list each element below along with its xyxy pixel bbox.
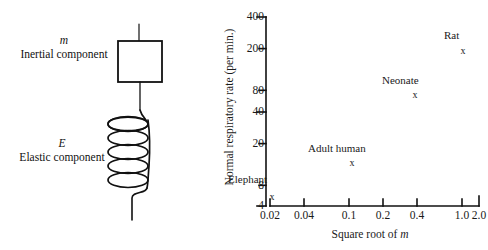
y-tick-label-200: 200	[234, 42, 264, 54]
point-marker-neonate: x	[409, 89, 421, 100]
respiratory-rate-chart: Normal respiratory rate (per min.)	[210, 0, 488, 250]
point-label-adult-human: Adult human	[308, 142, 366, 154]
point-marker-rat: x	[457, 45, 469, 56]
mass-label: m Inertial component	[8, 33, 120, 62]
y-tick-label-80: 80	[234, 84, 264, 96]
x-axis-title: Square root of m	[262, 228, 478, 240]
x-tick-label-2.0: 2.0	[459, 209, 488, 221]
spring-label: E Elastic component	[4, 136, 120, 165]
spring-caption: Elastic component	[19, 151, 104, 163]
spring-symbol: E	[4, 136, 120, 150]
x-tick-label-0.04: 0.04	[284, 209, 324, 221]
spring-bottom-lead	[132, 188, 147, 220]
mass-block	[118, 41, 162, 82]
mass-spring-model-diagram: m Inertial component E Elastic component	[0, 0, 210, 250]
figure-root: m Inertial component E Elastic component…	[0, 0, 488, 250]
y-tick-label-20: 20	[234, 137, 264, 149]
point-marker-adult-human: x	[346, 157, 358, 168]
x-axis-title-text: Square root of	[332, 228, 401, 240]
point-label-neonate: Neonate	[382, 74, 419, 86]
mass-symbol: m	[8, 33, 120, 47]
point-marker-elephant: x	[266, 191, 278, 202]
y-tick-label-400: 400	[234, 10, 264, 22]
x-axis-title-symbol: m	[400, 228, 408, 240]
point-label-rat: Rat	[444, 29, 459, 41]
y-tick-label-40: 40	[234, 105, 264, 117]
x-tick-label-0.4: 0.4	[397, 209, 437, 221]
spring-coil-lead	[108, 110, 148, 131]
mass-caption: Inertial component	[20, 48, 107, 60]
point-label-elephant: Elephant	[228, 173, 267, 185]
